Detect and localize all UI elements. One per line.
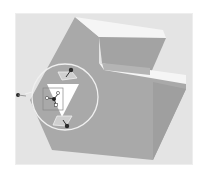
manipulator-left-arc bbox=[25, 92, 32, 94]
triad-x-endpoint-icon[interactable] bbox=[45, 96, 48, 99]
triad-y-endpoint-icon[interactable] bbox=[56, 91, 59, 94]
scene bbox=[0, 0, 203, 170]
triad-z-endpoint-icon[interactable] bbox=[55, 104, 58, 107]
triad-origin[interactable] bbox=[52, 97, 56, 101]
block-side-face bbox=[153, 82, 186, 160]
bottom-handle-knob[interactable] bbox=[65, 124, 69, 128]
top-handle-knob[interactable] bbox=[69, 68, 73, 72]
